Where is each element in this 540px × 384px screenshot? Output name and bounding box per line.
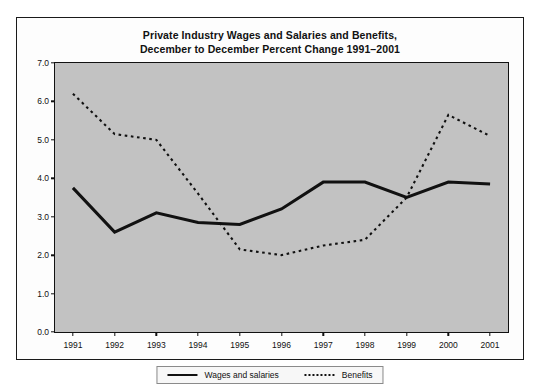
x-axis-tick-label: 2000 bbox=[439, 340, 458, 350]
x-axis-tick-mark bbox=[364, 332, 365, 336]
y-axis-tick-label: 2.0 bbox=[37, 250, 49, 260]
dotted-line-icon bbox=[305, 374, 335, 376]
legend-label-wages: Wages and salaries bbox=[204, 370, 278, 380]
legend-entry-benefits: Benefits bbox=[305, 370, 373, 380]
x-axis-tick-label: 1997 bbox=[314, 340, 333, 350]
y-axis-tick-mark bbox=[51, 62, 55, 63]
chart-title-line-2: December to December Percent Change 1991… bbox=[17, 42, 523, 56]
chart-title: Private Industry Wages and Salaries and … bbox=[17, 28, 523, 56]
x-axis-tick-mark bbox=[72, 332, 73, 336]
y-axis-tick-mark bbox=[51, 101, 55, 102]
x-axis-tick-label: 1994 bbox=[189, 340, 208, 350]
y-axis-tick-label: 0.0 bbox=[37, 327, 49, 337]
y-axis-tick-mark bbox=[51, 254, 55, 255]
x-axis-tick-label: 1993 bbox=[147, 340, 166, 350]
x-axis-tick-label: 1992 bbox=[105, 340, 124, 350]
chart-series-line bbox=[73, 94, 490, 255]
y-axis-tick-label: 5.0 bbox=[37, 135, 49, 145]
x-axis-tick-mark bbox=[489, 332, 490, 336]
chart-legend: Wages and salaries Benefits bbox=[156, 366, 383, 384]
x-axis-tick-label: 1996 bbox=[272, 340, 291, 350]
x-axis-tick-label: 1991 bbox=[63, 340, 82, 350]
y-axis-tick-label: 7.0 bbox=[37, 58, 49, 68]
plot-area: 0.01.02.03.04.05.06.07.01991199219931994… bbox=[54, 62, 509, 333]
x-axis-tick-mark bbox=[406, 332, 407, 336]
y-axis-tick-mark bbox=[51, 216, 55, 217]
chart-title-line-1: Private Industry Wages and Salaries and … bbox=[17, 28, 523, 42]
x-axis-tick-mark bbox=[114, 332, 115, 336]
x-axis-tick-label: 1999 bbox=[397, 340, 416, 350]
chart-figure: Private Industry Wages and Salaries and … bbox=[16, 17, 524, 360]
x-axis-tick-label: 1998 bbox=[355, 340, 374, 350]
x-axis-tick-mark bbox=[281, 332, 282, 336]
y-axis-tick-label: 4.0 bbox=[37, 173, 49, 183]
x-axis-tick-mark bbox=[323, 332, 324, 336]
y-axis-tick-label: 6.0 bbox=[37, 96, 49, 106]
x-axis-tick-label: 1995 bbox=[230, 340, 249, 350]
y-axis-tick-mark bbox=[51, 139, 55, 140]
plot-svg bbox=[55, 63, 508, 332]
chart-series-line bbox=[73, 182, 490, 232]
x-axis-tick-mark bbox=[156, 332, 157, 336]
y-axis-tick-mark bbox=[51, 331, 55, 332]
legend-entry-wages: Wages and salaries bbox=[167, 370, 278, 380]
solid-line-icon bbox=[167, 374, 197, 377]
y-axis-tick-label: 3.0 bbox=[37, 212, 49, 222]
x-axis-tick-mark bbox=[197, 332, 198, 336]
legend-label-benefits: Benefits bbox=[342, 370, 373, 380]
x-axis-tick-mark bbox=[448, 332, 449, 336]
y-axis-tick-mark bbox=[51, 293, 55, 294]
x-axis-tick-label: 2001 bbox=[481, 340, 500, 350]
y-axis-tick-mark bbox=[51, 178, 55, 179]
x-axis-tick-mark bbox=[239, 332, 240, 336]
y-axis-tick-label: 1.0 bbox=[37, 289, 49, 299]
